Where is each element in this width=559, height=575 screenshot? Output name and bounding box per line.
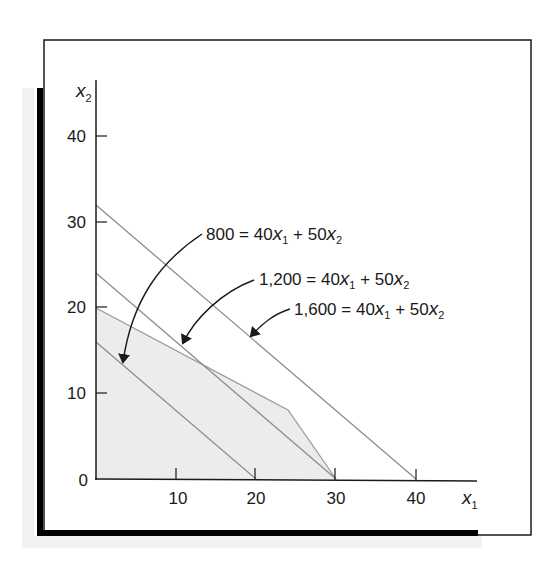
iso-label-1600: 1,600 = 40x1 + 50x2 [294,298,444,321]
x-tick-label-30: 30 [327,489,346,508]
iso-label-800: 800 = 40x1 + 50x2 [206,223,342,246]
y-tick-label-10: 10 [67,384,86,403]
x-tick-label-40: 40 [407,489,426,508]
shadow-texture-left [22,88,34,538]
frame-shadow-left [37,88,43,536]
x-tick-label-10: 10 [169,489,188,508]
iso-label-1200: 1,200 = 40x1 + 50x2 [259,268,409,291]
x-tick-label-20: 20 [247,489,266,508]
y-tick-label-0: 0 [79,471,88,490]
y-tick-label-30: 30 [67,213,86,232]
y-tick-label-40: 40 [67,127,86,146]
frame-shadow-bottom [37,530,478,536]
chart-svg: 40 30 20 10 0 10 20 30 40 x2 x1 800 = 40… [0,0,559,575]
iso-profit-figure: 40 30 20 10 0 10 20 30 40 x2 x1 800 = 40… [0,0,559,575]
y-tick-label-20: 20 [67,298,86,317]
shadow-texture-bottom [22,536,482,548]
